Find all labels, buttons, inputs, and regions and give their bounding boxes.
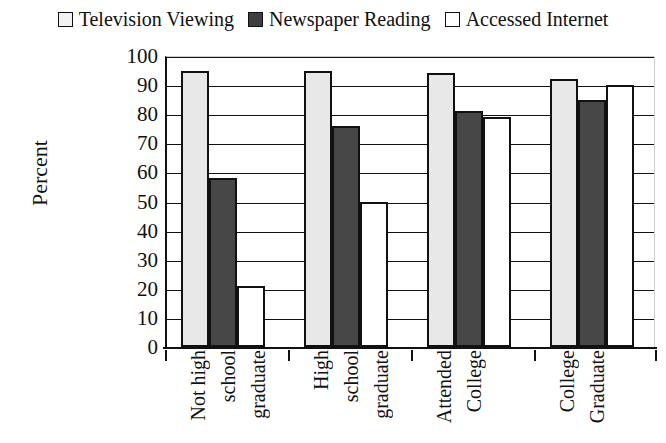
legend-item-newspaper-reading: Newspaper Reading [248,9,431,29]
legend-swatch-icon-television-viewing [58,12,73,27]
bar-newspaper-reading-group-2 [332,126,360,347]
y-tick-label-20: 20 [137,278,158,299]
y-axis-tick-labels: 0102030405060708090100 [96,42,158,362]
gridline-90 [167,86,654,87]
y-tick-label-100: 100 [127,46,159,67]
x-tick-mark-4 [655,350,657,361]
bar-accessed-internet-group-2 [360,202,388,348]
x-category-word: school [340,350,362,402]
x-category-word: graduate [247,350,269,419]
x-tick-mark-3 [534,350,536,361]
legend-item-accessed-internet: Accessed Internet [445,9,609,29]
y-tick-label-30: 30 [137,249,158,270]
bar-accessed-internet-group-4 [606,85,634,347]
x-category-word: Graduate [586,350,608,423]
y-axis-title: Percent [27,73,53,273]
chart-plot-area [165,56,655,347]
y-tick-label-70: 70 [137,133,158,154]
bar-television-viewing-group-4 [550,79,578,347]
x-axis-baseline [163,347,657,349]
x-category-word: Not high [187,350,209,421]
y-tick-label-50: 50 [137,191,158,212]
bar-newspaper-reading-group-3 [455,111,483,347]
x-category-label-group-1: Not highschoolgraduate [185,350,269,443]
y-tick-label-40: 40 [137,220,158,241]
x-category-word: College [463,350,485,412]
bar-accessed-internet-group-1 [237,286,265,347]
y-tick-label-90: 90 [137,75,158,96]
y-tick-label-0: 0 [148,337,159,358]
x-axis-category-labels: Not highschoolgraduateHighschoolgraduate… [165,350,655,443]
y-tick-label-80: 80 [137,104,158,125]
bar-accessed-internet-group-3 [483,117,511,347]
x-category-word: graduate [370,350,392,419]
bar-television-viewing-group-1 [181,71,209,347]
y-tick-label-10: 10 [137,307,158,328]
legend-label-accessed-internet: Accessed Internet [466,9,609,29]
bar-newspaper-reading-group-1 [209,178,237,347]
chart-legend: Television Viewing Newspaper Reading Acc… [0,4,666,34]
legend-item-television-viewing: Television Viewing [58,9,234,29]
bar-television-viewing-group-3 [427,73,455,347]
gridline-100 [167,57,654,58]
legend-label-television-viewing: Television Viewing [79,9,234,29]
legend-label-newspaper-reading: Newspaper Reading [269,9,431,29]
bar-television-viewing-group-2 [304,71,332,347]
legend-swatch-icon-accessed-internet [445,12,460,27]
bar-newspaper-reading-group-4 [578,100,606,347]
x-category-word: High [310,350,332,390]
x-tick-mark-0 [165,350,167,361]
legend-swatch-icon-newspaper-reading [248,12,263,27]
x-category-label-group-3: AttendedCollege [431,350,515,443]
x-tick-mark-1 [288,350,290,361]
x-tick-mark-2 [411,350,413,361]
y-tick-label-60: 60 [137,162,158,183]
x-category-word: Attended [433,350,455,423]
x-category-label-group-2: Highschoolgraduate [308,350,392,443]
x-category-word: school [217,350,239,402]
x-category-word: College [556,350,578,412]
x-category-label-group-4: CollegeGraduate [554,350,638,443]
